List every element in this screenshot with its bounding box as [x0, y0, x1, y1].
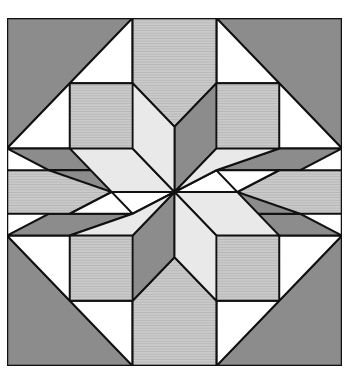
quilt-pieces: [7, 18, 342, 366]
quilt-block: [7, 18, 342, 366]
